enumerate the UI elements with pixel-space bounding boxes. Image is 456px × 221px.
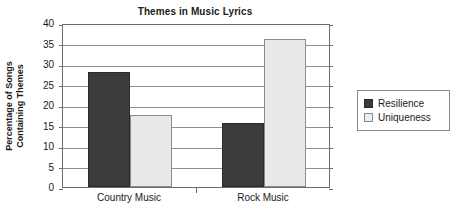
y-axis-tick (59, 86, 63, 87)
y-axis-title: Percentage of Songs Containing Themes (2, 24, 28, 188)
y-axis-tick (59, 107, 63, 108)
legend: Resilience Uniqueness (357, 90, 450, 131)
bar (264, 39, 306, 187)
legend-item[interactable]: Uniqueness (364, 110, 443, 124)
y-axis-title-line-2: Containing Themes (15, 61, 26, 151)
legend-label-uniqueness: Uniqueness (378, 112, 431, 123)
x-axis-tick-labels: Country MusicRock Music (62, 192, 330, 210)
legend-item[interactable]: Resilience (364, 96, 443, 110)
y-axis-tick-right (329, 66, 333, 67)
y-axis-tick-label: 40 (43, 19, 54, 29)
y-axis-tick (59, 189, 63, 190)
x-axis-tick-label: Country Music (97, 192, 161, 204)
y-axis-tick (59, 168, 63, 169)
y-axis-tick-label: 0 (48, 183, 54, 193)
x-axis-tick-label: Rock Music (237, 192, 289, 204)
y-axis-tick (59, 45, 63, 46)
y-axis-title-line-1: Percentage of Songs (4, 61, 15, 151)
plot-area (62, 24, 330, 188)
y-axis-tick-right (329, 86, 333, 87)
y-axis-tick-label: 10 (43, 142, 54, 152)
y-axis-tick-label: 35 (43, 40, 54, 50)
y-axis-tick-right (329, 25, 333, 26)
y-axis-tick (59, 66, 63, 67)
y-axis-tick-label: 20 (43, 101, 54, 111)
y-axis-tick-right (329, 189, 333, 190)
legend-label-resilience: Resilience (378, 98, 424, 109)
y-axis-tick-label: 5 (48, 163, 54, 173)
y-axis-tick-right (329, 107, 333, 108)
bar-chart: Themes in Music Lyrics Percentage of Son… (0, 0, 456, 221)
legend-swatch-resilience (364, 99, 373, 108)
legend-swatch-uniqueness (364, 113, 373, 122)
bar (130, 115, 172, 187)
y-axis-tick (59, 127, 63, 128)
bar (88, 72, 130, 187)
y-axis-tick (59, 148, 63, 149)
y-axis-tick-labels: 0510152025303540 (28, 24, 58, 188)
y-axis-tick-right (329, 148, 333, 149)
x-axis-tick (196, 188, 197, 193)
y-axis-tick-right (329, 127, 333, 128)
chart-title: Themes in Music Lyrics (60, 6, 330, 17)
y-axis-tick-label: 30 (43, 60, 54, 70)
bar (222, 123, 264, 187)
y-axis-tick-label: 25 (43, 81, 54, 91)
y-axis-tick-label: 15 (43, 122, 54, 132)
y-axis-tick-right (329, 168, 333, 169)
y-axis-tick (59, 25, 63, 26)
y-axis-tick-right (329, 45, 333, 46)
